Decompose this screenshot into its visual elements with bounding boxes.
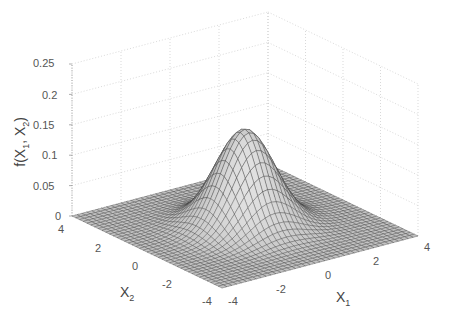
x2-label-sub: 2 — [129, 293, 134, 303]
x1-axis-label: X1 — [336, 290, 350, 308]
x2-tick-2: 2 — [95, 243, 101, 254]
x1-tick-0: 0 — [325, 270, 331, 281]
x2-tick-neg4: -4 — [202, 296, 212, 307]
z-label-sub2: 2 — [21, 122, 31, 127]
x2-label-text: X — [120, 284, 129, 300]
x1-tick-neg2: -2 — [276, 284, 286, 295]
x2-tick-0: 0 — [132, 261, 138, 272]
z-tick-01: 0.1 — [42, 150, 57, 161]
z-label-mid: , X — [12, 127, 28, 144]
z-tick-025: 0.25 — [33, 58, 54, 69]
x2-tick-4: 4 — [58, 224, 64, 235]
z-axis-line — [69, 64, 72, 216]
gaussian-surface — [72, 129, 418, 288]
z-tick-0: 0 — [55, 211, 61, 222]
surface-plot — [0, 0, 451, 321]
x1-label-sub: 1 — [345, 298, 350, 308]
z-tick-02: 0.2 — [42, 90, 57, 101]
x1-tick-4: 4 — [424, 242, 430, 253]
x1-label-text: X — [336, 289, 345, 305]
z-label-text: f(X — [12, 149, 28, 167]
x1-tick-neg4: -4 — [228, 296, 238, 307]
z-label-sub1: 1 — [21, 144, 31, 149]
x1-tick-2: 2 — [373, 256, 379, 267]
z-label-end: ) — [12, 117, 28, 122]
z-tick-015: 0.15 — [33, 120, 54, 131]
z-axis-label: f(X1, X2) — [13, 112, 31, 172]
x2-tick-neg2: -2 — [162, 279, 172, 290]
z-tick-005: 0.05 — [33, 181, 54, 192]
x2-axis-label: X2 — [120, 285, 134, 303]
